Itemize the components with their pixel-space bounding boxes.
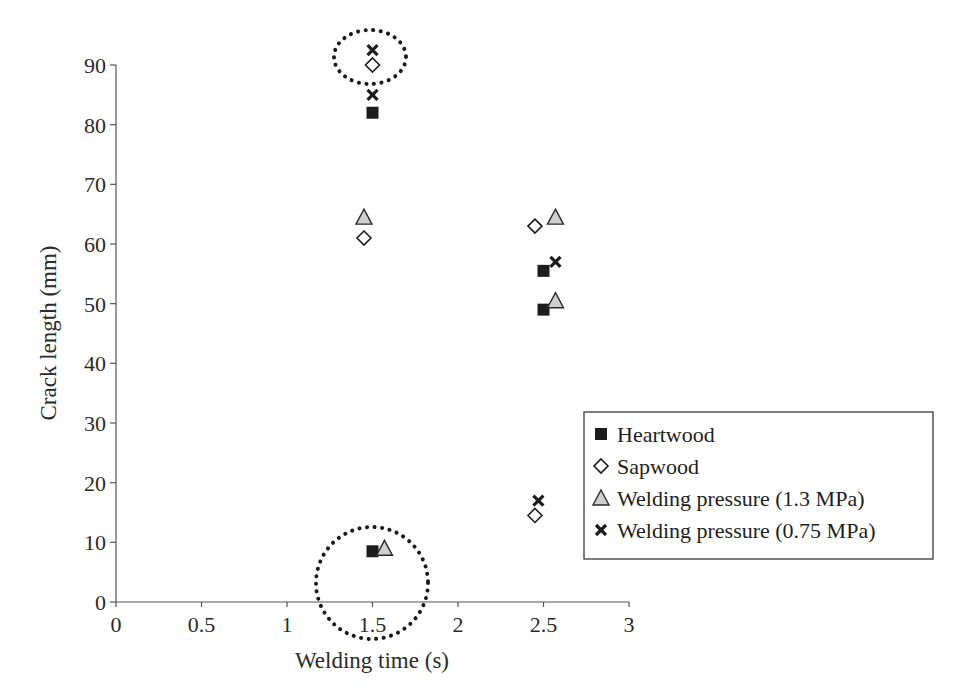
triangle-marker-icon <box>547 293 563 308</box>
y-tick-label: 60 <box>84 232 106 257</box>
y-tick-label: 10 <box>84 530 106 555</box>
triangle-marker-icon <box>376 540 392 555</box>
legend-label: Welding pressure (1.3 MPa) <box>617 486 865 511</box>
square-marker-icon <box>367 107 379 119</box>
x-tick-label: 1 <box>282 612 293 637</box>
square-marker-icon <box>595 428 607 440</box>
legend-item: Welding pressure (0.75 MPa) <box>596 518 876 543</box>
data-points <box>356 45 564 557</box>
series-welding-pressure-1-3-mpa- <box>356 209 564 555</box>
x-marker-icon <box>368 45 378 55</box>
triangle-marker-icon <box>547 209 563 224</box>
x-tick-label: 1.5 <box>359 612 387 637</box>
legend: HeartwoodSapwoodWelding pressure (1.3 MP… <box>584 412 933 559</box>
scatter-chart: 00.511.522.530102030405060708090 Welding… <box>0 0 966 699</box>
x-marker-icon <box>368 90 378 100</box>
x-marker-icon <box>550 257 560 267</box>
diamond-marker-icon <box>366 58 380 72</box>
y-tick-label: 0 <box>95 590 106 615</box>
axes <box>110 65 629 607</box>
y-tick-label: 50 <box>84 292 106 317</box>
x-tick-label: 0.5 <box>188 612 216 637</box>
y-tick-label: 80 <box>84 113 106 138</box>
x-tick-label: 2 <box>453 612 464 637</box>
legend-label: Welding pressure (0.75 MPa) <box>617 518 876 543</box>
square-marker-icon <box>538 265 550 277</box>
x-marker-icon <box>533 496 543 506</box>
series-heartwood <box>367 107 550 558</box>
dotted-ellipse-top <box>334 30 406 84</box>
x-tick-label: 0 <box>111 612 122 637</box>
y-axis-title: Crack length (mm) <box>36 245 61 420</box>
y-tick-label: 30 <box>84 411 106 436</box>
series-welding-pressure-0-75-mpa- <box>368 45 561 505</box>
x-axis-title: Welding time (s) <box>295 648 449 673</box>
y-tick-label: 90 <box>84 53 106 78</box>
series-sapwood <box>357 58 542 522</box>
diamond-marker-icon <box>528 508 542 522</box>
legend-item: Welding pressure (1.3 MPa) <box>593 486 865 511</box>
legend-label: Heartwood <box>617 422 715 447</box>
diamond-marker-icon <box>528 219 542 233</box>
legend-label: Sapwood <box>617 454 699 479</box>
tick-labels: 00.511.522.530102030405060708090 <box>84 53 635 637</box>
y-tick-label: 20 <box>84 471 106 496</box>
triangle-marker-icon <box>356 209 372 224</box>
x-tick-label: 3 <box>624 612 635 637</box>
square-marker-icon <box>538 304 550 316</box>
diamond-marker-icon <box>357 231 371 245</box>
x-tick-label: 2.5 <box>530 612 558 637</box>
y-tick-label: 40 <box>84 351 106 376</box>
y-tick-label: 70 <box>84 172 106 197</box>
